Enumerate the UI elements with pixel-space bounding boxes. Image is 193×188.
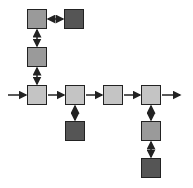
node-top-right [64,9,84,29]
node-row-3 [103,85,123,105]
node-top-left [27,9,47,29]
node-below-2 [65,121,85,141]
node-row-4 [141,85,161,105]
node-below-4a [141,121,161,141]
node-mid-left [27,47,47,67]
node-below-4b [141,158,161,178]
node-row-1 [27,85,47,105]
node-row-2 [65,85,85,105]
